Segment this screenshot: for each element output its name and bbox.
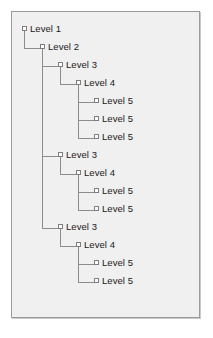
tree-node[interactable]: Level 4	[76, 237, 115, 251]
tree-node[interactable]: Level 5	[94, 111, 133, 125]
tree-connector-horizontal	[60, 246, 76, 247]
tree-node-square-icon[interactable]	[40, 44, 45, 49]
tree-node[interactable]: Level 2	[40, 39, 79, 53]
tree-diagram-frame: Level 1Level 2Level 3Level 4Level 5Level…	[11, 11, 200, 318]
tree-connector-horizontal	[60, 174, 76, 175]
tree-node-label: Level 5	[102, 275, 133, 286]
tree-connector-vertical	[78, 174, 79, 210]
tree-node-square-icon[interactable]	[94, 188, 99, 193]
tree-connector-horizontal	[78, 264, 94, 265]
tree-node-label: Level 5	[102, 185, 133, 196]
tree-node-label: Level 3	[66, 59, 97, 70]
tree-connector-vertical	[78, 246, 79, 282]
tree-node-square-icon[interactable]	[76, 242, 81, 247]
screenshot-canvas: Level 1Level 2Level 3Level 4Level 5Level…	[0, 0, 213, 338]
tree-node-label: Level 4	[84, 77, 115, 88]
tree-node-square-icon[interactable]	[94, 134, 99, 139]
tree-connector-horizontal	[78, 102, 94, 103]
tree-node-label: Level 4	[84, 167, 115, 178]
tree-connector-horizontal	[60, 84, 76, 85]
tree-view[interactable]: Level 1Level 2Level 3Level 4Level 5Level…	[12, 12, 199, 317]
tree-connector-horizontal	[42, 156, 58, 157]
tree-connector-horizontal	[78, 138, 94, 139]
tree-node[interactable]: Level 5	[94, 255, 133, 269]
tree-node[interactable]: Level 5	[94, 129, 133, 143]
tree-node-label: Level 3	[66, 221, 97, 232]
tree-node-label: Level 3	[66, 149, 97, 160]
tree-node-square-icon[interactable]	[58, 224, 63, 229]
tree-node-square-icon[interactable]	[94, 116, 99, 121]
tree-node-label: Level 5	[102, 95, 133, 106]
tree-node[interactable]: Level 5	[94, 93, 133, 107]
tree-node[interactable]: Level 4	[76, 165, 115, 179]
tree-connector-horizontal	[24, 48, 40, 49]
tree-node-square-icon[interactable]	[94, 206, 99, 211]
tree-node[interactable]: Level 5	[94, 273, 133, 287]
tree-connector-vertical	[42, 48, 43, 228]
tree-node[interactable]: Level 1	[22, 21, 61, 35]
tree-node[interactable]: Level 3	[58, 219, 97, 233]
tree-node[interactable]: Level 3	[58, 147, 97, 161]
tree-node-label: Level 5	[102, 203, 133, 214]
tree-connector-horizontal	[78, 210, 94, 211]
tree-node[interactable]: Level 3	[58, 57, 97, 71]
tree-node-square-icon[interactable]	[76, 80, 81, 85]
tree-connector-horizontal	[42, 228, 58, 229]
tree-node-label: Level 1	[30, 23, 61, 34]
tree-node-label: Level 4	[84, 239, 115, 250]
tree-connector-vertical	[78, 84, 79, 138]
tree-node-label: Level 2	[48, 41, 79, 52]
tree-node-square-icon[interactable]	[58, 152, 63, 157]
tree-node-square-icon[interactable]	[94, 260, 99, 265]
tree-connector-horizontal	[42, 66, 58, 67]
tree-node-square-icon[interactable]	[94, 278, 99, 283]
tree-node-label: Level 5	[102, 113, 133, 124]
tree-node-label: Level 5	[102, 257, 133, 268]
tree-node-square-icon[interactable]	[76, 170, 81, 175]
tree-node-square-icon[interactable]	[58, 62, 63, 67]
tree-node[interactable]: Level 5	[94, 201, 133, 215]
tree-node-label: Level 5	[102, 131, 133, 142]
tree-node-square-icon[interactable]	[94, 98, 99, 103]
tree-node[interactable]: Level 4	[76, 75, 115, 89]
tree-connector-horizontal	[78, 120, 94, 121]
tree-connector-horizontal	[78, 282, 94, 283]
tree-node-square-icon[interactable]	[22, 26, 27, 31]
tree-node[interactable]: Level 5	[94, 183, 133, 197]
tree-connector-horizontal	[78, 192, 94, 193]
